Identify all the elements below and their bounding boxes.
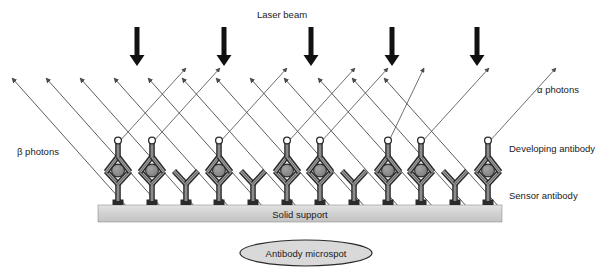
beta-photon-ray	[284, 78, 400, 208]
beta-photon-ray	[318, 78, 434, 208]
antibody-complexes	[106, 137, 500, 205]
sensor-antibody-only	[241, 171, 265, 205]
antigen-disc	[415, 164, 428, 177]
label-developing-antibody: Developing antibody	[509, 143, 595, 154]
beta-photon-ray	[384, 78, 500, 208]
antigen-disc	[314, 164, 327, 177]
alpha-photon-ray	[388, 68, 424, 143]
developing-antibody-tip-circle	[385, 137, 392, 144]
label-laser-beam: Laser beam	[257, 9, 307, 20]
antibody-complex-full	[275, 137, 299, 205]
label-alpha-photons: α photons	[537, 84, 579, 95]
antibody-complex-full	[207, 137, 231, 205]
laser-beam-arrows	[130, 27, 485, 66]
alpha-photon-ray	[152, 68, 220, 143]
antigen-disc	[213, 164, 226, 177]
alpha-photon-ray	[287, 68, 355, 143]
laser-beam-arrow	[385, 27, 400, 66]
laser-arrow-shaft	[309, 27, 314, 55]
beta-photon-ray	[12, 78, 128, 208]
laser-beam-arrow	[130, 27, 145, 66]
beta-photon-rays	[12, 78, 500, 208]
alpha-photon-ray	[118, 68, 186, 143]
antigen-disc	[382, 164, 395, 177]
beta-photon-ray	[46, 78, 162, 208]
laser-beam-arrow	[304, 27, 319, 66]
antibody-arm-hilite	[354, 171, 366, 184]
beta-photon-ray	[250, 78, 366, 208]
beta-photon-ray	[148, 78, 264, 208]
developing-antibody-tip-circle	[216, 137, 223, 144]
laser-arrow-shaft	[475, 27, 480, 55]
antigen-disc	[146, 164, 159, 177]
label-antibody-microspot: Antibody microspot	[266, 248, 347, 259]
laser-arrow-head	[217, 55, 232, 66]
beta-photon-ray	[114, 78, 230, 208]
alpha-photon-ray	[421, 68, 489, 143]
developing-antibody-tip-circle	[149, 137, 156, 144]
beta-photon-ray	[216, 78, 332, 208]
developing-antibody-tip-circle	[284, 137, 291, 144]
laser-arrow-shaft	[222, 27, 227, 55]
alpha-photon-ray	[219, 68, 287, 143]
developing-antibody-tip-circle	[418, 137, 425, 144]
laser-arrow-head	[304, 55, 319, 66]
antibody-microspot-diagram: Laser beam α photons β photons Developin…	[0, 0, 610, 273]
antibody-complex-full	[476, 137, 500, 205]
antibody-complex-full	[140, 137, 164, 205]
laser-arrow-head	[385, 55, 400, 66]
label-solid-support: Solid support	[272, 209, 328, 220]
alpha-photon-ray	[488, 68, 556, 143]
laser-arrow-shaft	[390, 27, 395, 55]
developing-antibody-tip-circle	[115, 137, 122, 144]
sensor-antibody-only	[443, 171, 467, 205]
laser-arrow-head	[470, 55, 485, 66]
antibody-arm-hilite	[455, 171, 467, 184]
antigen-disc	[112, 164, 125, 177]
alpha-photon-ray	[320, 68, 388, 143]
laser-arrow-shaft	[135, 27, 140, 55]
antibody-arm-hilite	[253, 171, 265, 184]
developing-antibody-tip-circle	[317, 137, 324, 144]
label-sensor-antibody: Sensor antibody	[509, 190, 578, 201]
laser-beam-arrow	[470, 27, 485, 66]
developing-antibody-tip-circle	[485, 137, 492, 144]
antibody-arm-hilite	[186, 171, 198, 184]
diagram-canvas: Laser beam α photons β photons Developin…	[0, 0, 610, 273]
antigen-disc	[482, 164, 495, 177]
laser-beam-arrow	[217, 27, 232, 66]
sensor-antibody-only	[342, 171, 366, 205]
antibody-complex-full	[409, 137, 433, 205]
beta-photon-ray	[182, 78, 298, 208]
antigen-disc	[281, 164, 294, 177]
beta-photon-ray	[80, 78, 196, 208]
label-beta-photons: β photons	[17, 146, 59, 157]
antibody-complex-full	[106, 137, 130, 205]
laser-arrow-head	[130, 55, 145, 66]
